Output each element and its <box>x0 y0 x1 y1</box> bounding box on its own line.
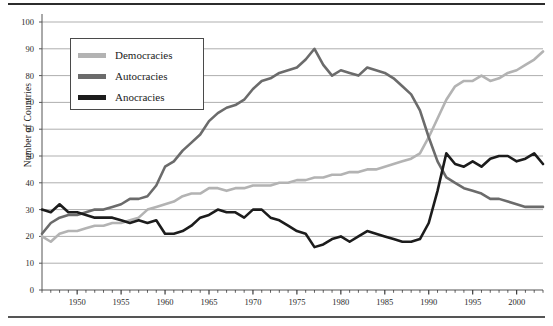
y-tick-label: 30 <box>12 205 34 215</box>
y-tick-label: 70 <box>12 97 34 107</box>
y-tick-label: 100 <box>12 17 34 27</box>
y-tick-label: 0 <box>12 285 34 295</box>
bottom-rule <box>8 316 545 318</box>
x-tick-label: 1975 <box>280 297 314 307</box>
x-tick-label: 1985 <box>368 297 402 307</box>
x-tick-label: 1965 <box>192 297 226 307</box>
y-tick-label: 60 <box>12 124 34 134</box>
chart-legend: Democracies Autocracies Anocracies <box>70 38 204 110</box>
x-tick-label: 1955 <box>104 297 138 307</box>
y-tick-label: 20 <box>12 231 34 241</box>
x-tick-label: 1970 <box>236 297 270 307</box>
legend-label-anocracies: Anocracies <box>115 92 164 103</box>
y-tick-label: 10 <box>12 258 34 268</box>
legend-swatch-democracies <box>78 53 106 58</box>
x-tick-label: 2000 <box>500 297 534 307</box>
x-tick-label: 1960 <box>148 297 182 307</box>
y-tick-label: 90 <box>12 44 34 54</box>
figure-footnote <box>300 319 550 326</box>
x-tick-label: 1995 <box>456 297 490 307</box>
y-tick-label: 40 <box>12 178 34 188</box>
x-tick-label: 1950 <box>60 297 94 307</box>
legend-label-autocracies: Autocracies <box>115 71 168 82</box>
legend-label-democracies: Democracies <box>115 50 172 61</box>
legend-entry-anocracies: Anocracies <box>78 87 164 107</box>
x-tick-label: 1990 <box>412 297 446 307</box>
y-tick-label: 80 <box>12 71 34 81</box>
legend-swatch-autocracies <box>78 74 106 79</box>
legend-entry-democracies: Democracies <box>78 45 172 65</box>
legend-entry-autocracies: Autocracies <box>78 66 168 86</box>
y-tick-label: 50 <box>12 151 34 161</box>
figure-container: Number of Countries Democracies Autocrac… <box>0 0 553 326</box>
legend-swatch-anocracies <box>78 95 106 100</box>
x-tick-label: 1980 <box>324 297 358 307</box>
